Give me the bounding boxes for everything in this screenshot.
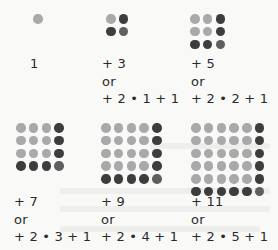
inner-dot bbox=[217, 174, 227, 184]
corner-dot bbox=[216, 40, 226, 50]
inner-dot bbox=[42, 136, 52, 146]
edge-dot bbox=[54, 136, 64, 146]
expression: + 3 bbox=[102, 55, 179, 73]
inner-dot bbox=[242, 149, 252, 159]
expression: + 5 bbox=[191, 55, 268, 73]
edge-dot bbox=[101, 174, 111, 184]
inner-dot bbox=[101, 161, 111, 171]
inner-dot bbox=[229, 136, 239, 146]
edge-dot bbox=[119, 14, 129, 24]
inner-dot bbox=[242, 136, 252, 146]
dot-square-2x2 bbox=[106, 14, 128, 36]
inner-dot bbox=[33, 14, 43, 24]
inner-dot bbox=[229, 161, 239, 171]
edge-dot bbox=[216, 27, 226, 37]
inner-dot bbox=[217, 149, 227, 159]
inner-dot bbox=[204, 123, 214, 133]
alt-expression: + 2 • 1 + 1 bbox=[102, 90, 179, 108]
inner-dot bbox=[114, 123, 124, 133]
inner-dot bbox=[203, 14, 213, 24]
inner-dot bbox=[127, 136, 137, 146]
inner-dot bbox=[242, 123, 252, 133]
edge-dot bbox=[255, 161, 265, 171]
edge-dot bbox=[216, 14, 226, 24]
inner-dot bbox=[242, 161, 252, 171]
inner-dot bbox=[29, 123, 39, 133]
inner-dot bbox=[191, 174, 201, 184]
edge-dot bbox=[127, 174, 137, 184]
inner-dot bbox=[204, 136, 214, 146]
inner-dot bbox=[191, 149, 201, 159]
expression: + 11 bbox=[191, 193, 268, 211]
or-text: or bbox=[101, 211, 178, 229]
inner-dot bbox=[139, 123, 149, 133]
inner-dot bbox=[139, 149, 149, 159]
inner-dot bbox=[229, 123, 239, 133]
inner-dot bbox=[229, 149, 239, 159]
edge-dot bbox=[16, 161, 26, 171]
label-4x4: + 7 or + 2 • 3 + 1 bbox=[14, 193, 91, 246]
inner-dot bbox=[217, 136, 227, 146]
expression: 1 bbox=[30, 55, 38, 73]
inner-dot bbox=[127, 123, 137, 133]
inner-dot bbox=[139, 161, 149, 171]
inner-dot bbox=[101, 149, 111, 159]
or-text: or bbox=[191, 211, 268, 229]
edge-dot bbox=[203, 40, 213, 50]
edge-dot bbox=[255, 123, 265, 133]
alt-expression: + 2 • 3 + 1 bbox=[14, 228, 91, 246]
inner-dot bbox=[101, 123, 111, 133]
inner-dot bbox=[106, 14, 116, 24]
inner-dot bbox=[229, 174, 239, 184]
label-5x5: + 9 or + 2 • 4 + 1 bbox=[101, 193, 178, 246]
edge-dot bbox=[54, 149, 64, 159]
edge-dot bbox=[255, 174, 265, 184]
inner-dot bbox=[204, 174, 214, 184]
corner-dot bbox=[152, 174, 162, 184]
alt-expression: + 2 • 5 + 1 bbox=[191, 228, 268, 246]
inner-dot bbox=[190, 27, 200, 37]
inner-dot bbox=[127, 161, 137, 171]
inner-dot bbox=[191, 161, 201, 171]
edge-dot bbox=[255, 149, 265, 159]
inner-dot bbox=[42, 149, 52, 159]
edge-dot bbox=[106, 27, 116, 37]
inner-dot bbox=[101, 136, 111, 146]
label-3x3: + 5 or + 2 • 2 + 1 bbox=[191, 55, 268, 108]
inner-dot bbox=[114, 149, 124, 159]
dot-square-6x6 bbox=[191, 123, 264, 196]
dot-square-4x4 bbox=[16, 123, 64, 171]
corner-dot bbox=[54, 161, 64, 171]
inner-dot bbox=[16, 149, 26, 159]
inner-dot bbox=[29, 136, 39, 146]
inner-dot bbox=[242, 174, 252, 184]
inner-dot bbox=[114, 161, 124, 171]
corner-dot bbox=[119, 27, 129, 37]
label-2x2: + 3 or + 2 • 1 + 1 bbox=[102, 55, 179, 108]
inner-dot bbox=[203, 27, 213, 37]
inner-dot bbox=[16, 123, 26, 133]
dot-square-5x5 bbox=[101, 123, 162, 184]
edge-dot bbox=[152, 136, 162, 146]
edge-dot bbox=[114, 174, 124, 184]
or-text: or bbox=[102, 73, 179, 91]
inner-dot bbox=[16, 136, 26, 146]
alt-expression: + 2 • 4 + 1 bbox=[101, 228, 178, 246]
or-text: or bbox=[14, 211, 91, 229]
inner-dot bbox=[127, 149, 137, 159]
dot-square-3x3 bbox=[190, 14, 225, 49]
alt-expression: + 2 • 2 + 1 bbox=[191, 90, 268, 108]
label-1x1: 1 bbox=[30, 55, 38, 73]
inner-dot bbox=[190, 14, 200, 24]
dot-square-1x1 bbox=[33, 14, 43, 24]
or-text: or bbox=[191, 73, 268, 91]
edge-dot bbox=[255, 136, 265, 146]
expression: + 9 bbox=[101, 193, 178, 211]
edge-dot bbox=[152, 149, 162, 159]
inner-dot bbox=[217, 123, 227, 133]
inner-dot bbox=[204, 161, 214, 171]
label-6x6: + 11 or + 2 • 5 + 1 bbox=[191, 193, 268, 246]
expression: + 7 bbox=[14, 193, 91, 211]
edge-dot bbox=[190, 40, 200, 50]
inner-dot bbox=[29, 149, 39, 159]
